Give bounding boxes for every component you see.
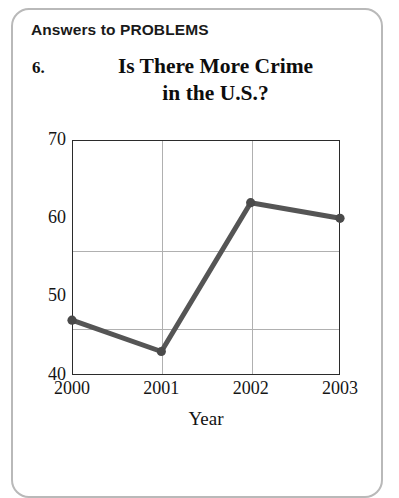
x-tick-label-2003: 2003 [305, 378, 375, 399]
y-tick-label-70: 70 [26, 129, 66, 150]
x-tick-label-2001: 2001 [126, 378, 196, 399]
gridline-x-2001 [162, 141, 163, 374]
x-tick-label-2002: 2002 [216, 378, 286, 399]
gridline-x-2002 [252, 141, 253, 374]
gridline-y-60 [73, 251, 339, 252]
gridline-y-50 [73, 329, 339, 330]
x-axis-title: Year [72, 408, 340, 430]
y-tick-label-60: 60 [26, 207, 66, 228]
x-tick-label-2000: 2000 [37, 378, 107, 399]
y-tick-label-50: 50 [26, 285, 66, 306]
plot-frame [72, 140, 340, 375]
